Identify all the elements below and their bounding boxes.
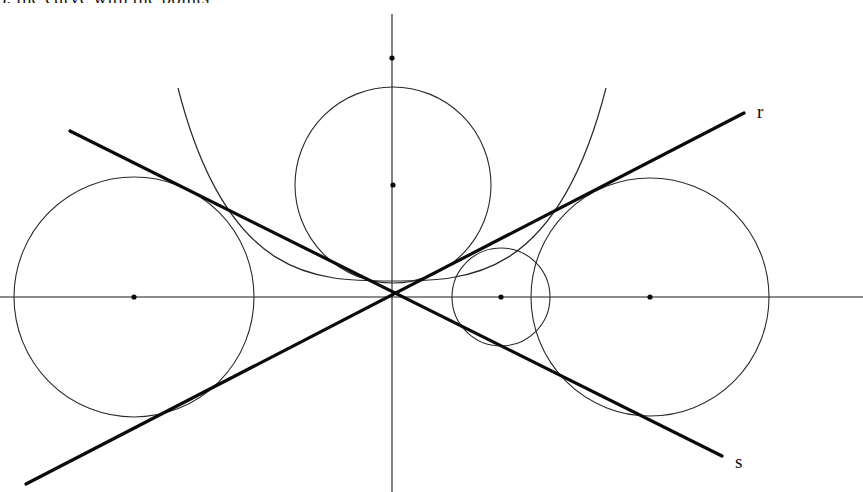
line-r-label: r — [757, 101, 764, 122]
small-circle-center-dot — [498, 294, 503, 299]
left-circle-center-dot — [131, 294, 136, 299]
line-s[interactable] — [70, 131, 722, 456]
line-s-label: s — [735, 451, 742, 472]
geometry-diagram: r s — [0, 0, 863, 492]
geometry-figure-root: ), the curve with the points r s — [0, 0, 863, 492]
right-circle-center-dot — [647, 294, 652, 299]
top-circle-center-dot — [390, 182, 395, 187]
y-axis-upper-point-dot — [389, 55, 394, 60]
